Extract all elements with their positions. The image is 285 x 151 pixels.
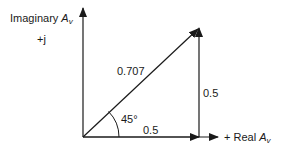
imaginary-axis-label: Imaginary Av <box>10 12 73 28</box>
resultant-vector <box>83 29 198 137</box>
imaginary-sign-label: +j <box>37 33 46 45</box>
real-axis-label: + Real Av <box>224 131 271 147</box>
angle-arc <box>109 112 120 138</box>
resultant-magnitude-label: 0.707 <box>117 65 145 77</box>
imaginary-component-label: 0.5 <box>203 87 218 99</box>
real-component-label: 0.5 <box>143 124 158 136</box>
phasor-diagram: Imaginary Av +j 0.707 0.5 45° 0.5 + Real… <box>0 0 285 151</box>
angle-label: 45° <box>121 113 138 125</box>
